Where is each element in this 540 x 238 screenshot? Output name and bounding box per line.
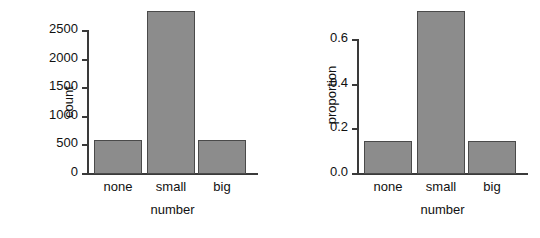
x-tick-label-count-none: none: [88, 180, 148, 194]
y-tick-label-proportion-04: 0.4: [330, 76, 348, 89]
plot-area-count: count 0 500 1000 1500 2000 2500: [87, 0, 258, 175]
y-tick-count-1500: 1500: [82, 87, 88, 89]
y-tick-label-proportion-06: 0.6: [330, 31, 348, 44]
y-tick-label-count-2500: 2500: [49, 22, 78, 35]
y-tick-count-0: 0: [82, 173, 88, 175]
x-tick-label-proportion-big: big: [462, 180, 522, 194]
plot-area-proportion: proportion 0.0 0.2 0.4 0.6 none small: [357, 0, 528, 175]
bar-count-big: [198, 140, 246, 174]
bar-proportion-big: [468, 141, 516, 174]
figure-two-panel-bar-charts: count 0 500 1000 1500 2000 2500: [0, 0, 540, 238]
x-axis-title-proportion: number: [357, 203, 528, 217]
x-tick-label-count-big: big: [192, 180, 252, 194]
x-tick-label-proportion-none: none: [358, 180, 418, 194]
y-axis-line-proportion: [357, 39, 359, 175]
x-axis-title-count: number: [87, 203, 258, 217]
y-tick-proportion-02: 0.2: [352, 128, 358, 130]
panel-proportion: proportion 0.0 0.2 0.4 0.6 none small: [270, 0, 540, 238]
y-tick-count-2000: 2000: [82, 59, 88, 61]
y-axis-title-count: count: [62, 62, 76, 142]
bar-proportion-none: [364, 141, 412, 174]
bar-count-small: [147, 11, 195, 174]
y-tick-label-count-2000: 2000: [49, 51, 78, 64]
y-tick-label-count-500: 500: [56, 136, 78, 149]
y-tick-label-count-1000: 1000: [49, 108, 78, 121]
y-axis-line-count: [87, 30, 89, 175]
y-tick-count-2500: 2500: [82, 30, 88, 32]
bar-count-none: [94, 140, 142, 174]
y-tick-proportion-04: 0.4: [352, 84, 358, 86]
y-tick-label-proportion-02: 0.2: [330, 120, 348, 133]
y-tick-count-1000: 1000: [82, 116, 88, 118]
y-tick-count-500: 500: [82, 144, 88, 146]
panel-count: count 0 500 1000 1500 2000 2500: [0, 0, 270, 238]
bar-proportion-small: [417, 11, 465, 174]
y-tick-label-count-0: 0: [71, 165, 78, 178]
y-tick-proportion-06: 0.6: [352, 39, 358, 41]
y-tick-label-count-1500: 1500: [49, 79, 78, 92]
y-tick-proportion-0: 0.0: [352, 173, 358, 175]
y-tick-label-proportion-0: 0.0: [330, 165, 348, 178]
